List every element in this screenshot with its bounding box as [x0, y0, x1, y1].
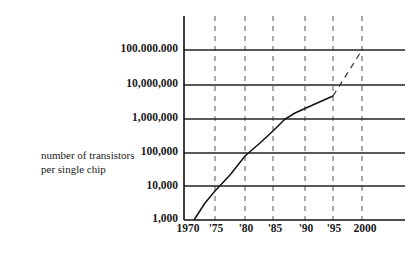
- series-projected-line: [333, 50, 362, 96]
- chart-plot-area: [0, 0, 418, 256]
- horizontal-gridlines: [184, 50, 405, 186]
- vertical-gridlines: [215, 16, 362, 220]
